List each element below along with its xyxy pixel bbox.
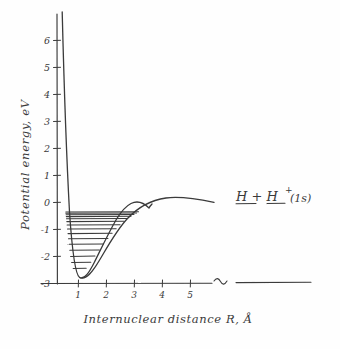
y-tick-label: 5 (44, 62, 50, 73)
x-tick-label: 4 (158, 290, 165, 300)
axis-break-squiggle (214, 279, 227, 285)
y-tick-label: 0 (44, 197, 50, 208)
y-tick-label: 6 (44, 35, 50, 46)
y-tick-label: -1 (41, 224, 50, 235)
asymptote-label: H + H + (1s) (235, 185, 311, 205)
y-axis-title: Potential energy, eV (18, 98, 32, 231)
x-tick-label: 3 (131, 290, 137, 300)
x-tick-label: 2 (102, 290, 109, 300)
y-tick-label: -2 (41, 251, 50, 262)
asymptote-label-main: H + H (235, 189, 278, 204)
diagram-canvas: 6 5 4 3 2 1 0 -1 -2 -3 1 2 3 4 5 Potenti… (0, 0, 340, 349)
x-axis-title: Internuclear distance R, Å (82, 312, 252, 326)
potential-curve-attractive-branch (80, 197, 214, 278)
y-tick-label: -3 (41, 278, 50, 289)
y-tick-label: 4 (43, 89, 50, 100)
vibrational-energy-levels (66, 212, 139, 269)
x-tick-labels: 1 2 3 4 5 (75, 290, 193, 300)
y-tick-label: 1 (44, 170, 50, 181)
x-tick-label: 5 (187, 290, 193, 300)
y-tick-labels: 6 5 4 3 2 1 0 -1 -2 -3 (41, 35, 50, 289)
y-tick-label: 3 (44, 116, 50, 127)
x-tick-label: 1 (75, 290, 81, 300)
y-tick-label: 2 (43, 143, 50, 154)
potential-energy-diagram: 6 5 4 3 2 1 0 -1 -2 -3 1 2 3 4 5 Potenti… (0, 0, 340, 349)
asymptote-label-state: (1s) (290, 192, 311, 205)
